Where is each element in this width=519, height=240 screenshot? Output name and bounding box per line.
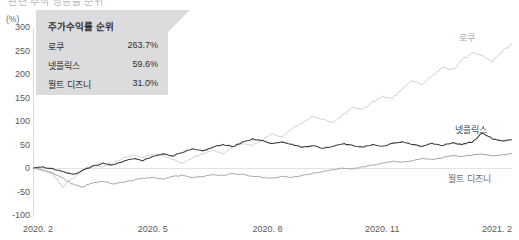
x-axis-tick-label: 2020. 2 [23, 224, 53, 234]
x-axis-tick-label: 2020. 5 [138, 224, 168, 234]
x-axis-tick-label: 2020. 11 [365, 224, 399, 234]
callout-row-name: 월트 디즈니 [48, 78, 91, 91]
series-label-roku: 로쿠 [459, 31, 475, 44]
y-axis-tick-label: -50 [0, 187, 30, 197]
series-line-netflix [33, 133, 512, 174]
y-axis-tick-label: 0 [0, 163, 30, 173]
series-label-netflix: 넷플릭스 [455, 123, 487, 136]
ranking-callout: 주가수익률 순위 로쿠 263.7% 넷플릭스 59.6% 월트 디즈니 31.… [36, 10, 168, 95]
clipped-headline: 관련 주식 상승률 순위 [0, 0, 519, 7]
series-label-disney: 월트 디즈니 [448, 172, 491, 185]
callout-row: 넷플릭스 59.6% [48, 59, 158, 76]
callout-row-value: 31.0% [132, 78, 158, 88]
series-line-disney [33, 153, 512, 187]
y-axis-labels: 300250200150100500-50-100 [0, 0, 30, 240]
callout-row-name: 로쿠 [48, 40, 64, 53]
y-axis-tick-label: 150 [0, 93, 30, 103]
x-axis-tick-label: 2021. 2 [482, 224, 512, 234]
callout-title: 주가수익률 순위 [48, 19, 114, 33]
y-axis-tick-label: 100 [0, 116, 30, 126]
y-axis-tick-label: -100 [0, 210, 30, 220]
callout-row: 로쿠 263.7% [48, 40, 158, 57]
x-axis-labels: 2020. 22020. 52020. 82020. 112021. 2 [0, 220, 519, 240]
callout-row-value: 263.7% [127, 40, 158, 50]
callout-row-name: 넷플릭스 [48, 59, 80, 72]
callout-row: 월트 디즈니 31.0% [48, 78, 158, 95]
y-axis-tick-label: 300 [0, 22, 30, 32]
callout-row-value: 59.6% [132, 59, 158, 69]
callout-tail-icon [168, 10, 190, 32]
x-axis-tick-label: 2020. 8 [252, 224, 282, 234]
y-axis-tick-label: 50 [0, 140, 30, 150]
chart-root: 관련 주식 상승률 순위 (%) 300250200150100500-50-1… [0, 0, 519, 240]
y-axis-tick-label: 200 [0, 69, 30, 79]
y-axis-tick-label: 250 [0, 46, 30, 56]
